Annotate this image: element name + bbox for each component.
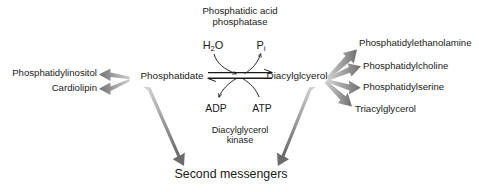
node-phosphatidate: Phosphatidate <box>140 70 203 81</box>
water-oxygen: O <box>215 39 224 51</box>
arrow-to-cardiolipin <box>99 79 130 95</box>
enzyme-phosphatase-line2: phosphatase <box>202 17 277 28</box>
nucleotide-atp: ATP <box>252 103 271 115</box>
water-symbol: H <box>203 39 211 51</box>
arrow-layer <box>0 0 479 192</box>
equilibrium-arrows <box>207 69 272 81</box>
water-subscript: 2 <box>211 44 215 53</box>
metabolic-pathway-diagram: Phosphatidic acid phosphatase H2O Pi Pho… <box>0 0 479 192</box>
curve-atp-in <box>243 79 259 97</box>
enzyme-kinase-line1: Diacylglycerol <box>212 125 269 135</box>
nucleotide-adp: ADP <box>205 103 226 115</box>
substrate-water-label: H2O <box>203 39 224 52</box>
product-phosphatidylethanolamine: Phosphatidylethanolamine <box>359 38 472 49</box>
arrow-diacylglycerol-to-second-messengers <box>277 87 316 167</box>
enzyme-label-kinase: Diacylglycerol kinase <box>212 125 269 146</box>
enzyme-label-phosphatase: Phosphatidic acid phosphatase <box>202 6 277 27</box>
arrow-to-phosphatidylinositol <box>99 69 130 81</box>
phosphate-subscript: i <box>264 44 266 53</box>
product-triacylglycerol: Triacylglycerol <box>355 104 416 115</box>
curve-adp-out <box>219 79 236 97</box>
curve-phosphate-out <box>245 54 261 74</box>
product-phosphatidylinositol: Phosphatidylinositol <box>12 68 97 79</box>
product-phosphatidylserine: Phosphatidylserine <box>363 82 444 93</box>
node-diacylglycerol: Diacylglcyerol <box>267 70 328 81</box>
product-phosphatidylcholine: Phosphatidylcholine <box>363 61 448 72</box>
product-phosphate-label: Pi <box>256 39 265 52</box>
terminal-second-messengers: Second messengers <box>175 168 288 182</box>
product-cardiolipin: Cardiolipin <box>52 83 97 94</box>
arrow-phosphatidate-to-second-messengers <box>143 87 185 167</box>
enzyme-kinase-line2: kinase <box>212 135 269 145</box>
curve-water-in <box>214 54 236 74</box>
